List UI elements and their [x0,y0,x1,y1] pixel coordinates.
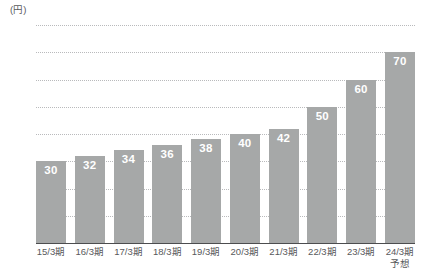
bar[interactable]: 42 [269,129,299,243]
x-axis-category-label: 23/3期 [346,246,376,270]
category-name: 18/3期 [153,246,182,257]
bar-slot: 50 [307,25,337,243]
bar[interactable]: 30 [36,161,66,243]
category-name: 21/3期 [269,246,298,257]
bar-slot: 34 [114,25,144,243]
bar-value-label: 30 [36,165,66,177]
bar-value-label: 34 [114,154,144,166]
bar[interactable]: 40 [230,134,260,243]
category-name: 20/3期 [231,246,260,257]
bar[interactable]: 60 [346,80,376,244]
bar-series: 30323436384042506070 [36,25,415,243]
category-name: 23/3期 [347,246,376,257]
bar-value-label: 32 [75,160,105,172]
bar-value-label: 36 [152,149,182,161]
x-axis-category-labels: 15/3期16/3期17/3期18/3期19/3期20/3期21/3期22/3期… [36,246,415,270]
bar-value-label: 70 [385,56,415,68]
category-name: 24/3期 [386,246,415,257]
bar[interactable]: 34 [114,150,144,243]
bar[interactable]: 38 [191,139,221,243]
bar[interactable]: 50 [307,107,337,243]
x-axis-category-label: 19/3期 [191,246,221,270]
bar-slot: 42 [269,25,299,243]
bar-value-label: 50 [307,111,337,123]
bar-slot: 40 [230,25,260,243]
category-sublabel: 予想 [385,258,415,270]
bar-value-label: 38 [191,143,221,155]
plot-area: 30323436384042506070 [36,25,415,243]
bar-slot: 36 [152,25,182,243]
category-name: 15/3期 [37,246,66,257]
category-name: 22/3期 [308,246,337,257]
bar-slot: 38 [191,25,221,243]
category-name: 16/3期 [76,246,105,257]
y-axis-unit-label: (円) [10,2,26,16]
x-axis-category-label: 22/3期 [307,246,337,270]
axis-baseline [36,243,415,244]
bar-value-label: 60 [346,84,376,96]
bar-slot: 60 [346,25,376,243]
x-axis-category-label: 15/3期 [36,246,66,270]
x-axis-category-label: 24/3期予想 [385,246,415,270]
x-axis-category-label: 16/3期 [75,246,105,270]
category-name: 17/3期 [114,246,143,257]
bar-chart: (円) 30323436384042506070 010203040506070… [0,0,430,280]
bar-slot: 30 [36,25,66,243]
bar-slot: 70 [385,25,415,243]
bar[interactable]: 32 [75,156,105,243]
bar-slot: 32 [75,25,105,243]
x-axis-category-label: 18/3期 [152,246,182,270]
category-name: 19/3期 [192,246,221,257]
x-axis-category-label: 21/3期 [269,246,299,270]
x-axis-category-label: 20/3期 [230,246,260,270]
bar-value-label: 40 [230,138,260,150]
bar[interactable]: 70 [385,52,415,243]
x-axis-category-label: 17/3期 [114,246,144,270]
bar-value-label: 42 [269,133,299,145]
bar[interactable]: 36 [152,145,182,243]
